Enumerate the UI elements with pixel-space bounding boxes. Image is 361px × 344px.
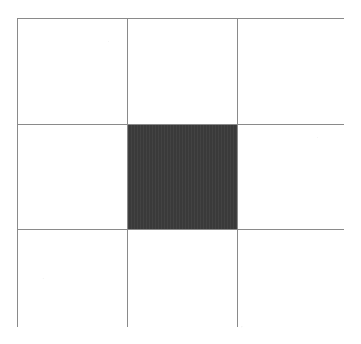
grid-cell-row1-col1[interactable]	[18, 19, 127, 124]
grid-cell-row1-col3[interactable]	[238, 19, 347, 124]
grid-cell-row2-col1[interactable]	[18, 125, 127, 229]
figure-canvas	[0, 0, 361, 344]
grid-cell-row1-col2[interactable]	[128, 19, 237, 124]
grid-cell-row3-col3[interactable]	[238, 230, 347, 330]
three-by-three-grid	[17, 18, 344, 327]
grid-cell-row3-col2[interactable]	[128, 230, 237, 330]
grid-cell-row3-col1[interactable]	[18, 230, 127, 330]
grid-cell-row2-col2-shaded[interactable]	[128, 125, 237, 229]
grid-cell-row2-col3[interactable]	[238, 125, 347, 229]
